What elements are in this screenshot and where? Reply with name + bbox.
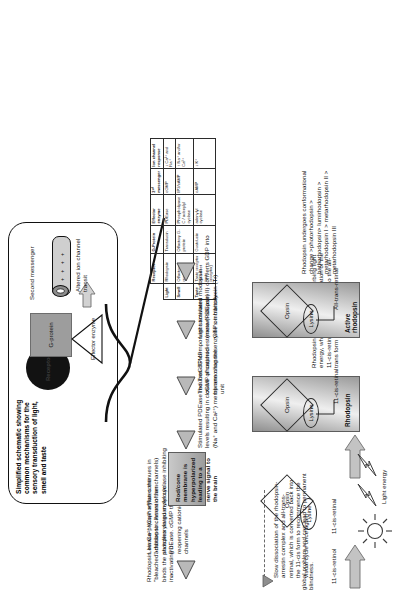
th-effector: Effector enzyme bbox=[151, 195, 164, 226]
effector-enzyme-label: Effector enzyme bbox=[84, 318, 102, 360]
row-stimulus-light: Light bbox=[163, 284, 176, 300]
lysine-label-active: Lysine bbox=[308, 311, 314, 328]
cascade-arrow-1-icon bbox=[176, 430, 196, 450]
cell-channel-taste: ↓ K⁺ bbox=[193, 139, 215, 169]
cell-gprotein-smell: Olfactory G-protein bbox=[176, 226, 193, 254]
cell-receptor-light: Rhodopsin bbox=[163, 254, 176, 284]
cell-messenger-smell: IP3/cAMP bbox=[176, 169, 193, 195]
th-channel: Ion channel response bbox=[151, 139, 164, 169]
opsin-label-active: Opsin bbox=[283, 297, 290, 325]
cell-messenger-light: cGMP bbox=[163, 169, 176, 195]
retinol-label: 11-cis-retinol bbox=[330, 532, 337, 584]
th-gprotein: G-Protein bbox=[151, 226, 164, 254]
ion-channel-dots: + + + + bbox=[59, 251, 65, 281]
cell-gprotein-light: Transducin bbox=[163, 226, 176, 254]
ion-channel-end-icon bbox=[52, 284, 69, 298]
cell-channel-smell: ↑ Na⁺ and/or Ca²⁺ bbox=[176, 139, 193, 169]
table-header-row: Receptor G-Protein Effector enzyme 2ⁿᵈ m… bbox=[151, 139, 164, 300]
receptor-label: Receptor bbox=[45, 355, 51, 381]
lightning-bolt-1-icon bbox=[358, 482, 378, 508]
th-messenger: 2ⁿᵈ messenger bbox=[151, 169, 164, 195]
cascade-arrow-3-icon bbox=[176, 320, 196, 340]
retinal-label: 11-cis-retinal bbox=[330, 482, 337, 534]
lysine-label-rhodopsin: Lysine bbox=[308, 405, 314, 422]
recovery-arrow-1-icon bbox=[176, 560, 196, 580]
channel-transit-label: Altered ion channel transit bbox=[74, 234, 89, 292]
cell-effector-smell: Phospholipase C / adenylyl cyclase bbox=[176, 195, 193, 226]
sun-icon bbox=[358, 514, 392, 548]
conformational-text: Rhodopsin undergoes conformational chang… bbox=[300, 154, 337, 274]
row-stimulus-smell: Smell bbox=[176, 284, 193, 300]
cell-messenger-taste: cAMP bbox=[193, 169, 215, 195]
figure-canvas: Simplified schematic showing common mech… bbox=[0, 0, 400, 600]
cascade-arrow-2-icon bbox=[176, 376, 196, 396]
table-row: Light Rhodopsin Transducin PDEase cGMP ↓… bbox=[163, 139, 176, 300]
gprotein-label: G-protein bbox=[48, 323, 54, 348]
gprotein-shape: G-protein bbox=[30, 313, 72, 357]
opsin-label-free: Opsin bbox=[283, 487, 290, 513]
lysine-label-free: Lysine bbox=[306, 506, 312, 523]
cell-effector-light: PDEase bbox=[163, 195, 176, 226]
step-cascade-3: Light activated rhodopsin (metarhodopsin… bbox=[196, 234, 218, 338]
cell-effector-taste: adenylyl cyclase bbox=[193, 195, 215, 226]
opsin-label-rhodopsin: Opsin bbox=[283, 391, 290, 419]
cascade-arrow-4-icon bbox=[176, 262, 196, 282]
effector-text: Effector enzyme bbox=[90, 318, 97, 360]
lysine-ellipse-free: Lysine bbox=[300, 498, 317, 530]
lightning-bolt-2-icon bbox=[358, 452, 378, 478]
light-energy-label: Light energy bbox=[380, 456, 387, 504]
nerve-signal-text: Rod/cone membrane is hyperpolarized lead… bbox=[174, 458, 218, 502]
th-receptor: Receptor bbox=[151, 254, 164, 284]
table-corner-cell bbox=[151, 284, 164, 300]
cell-channel-light: ↓ Ca²⁺ and Na⁺ bbox=[163, 139, 176, 169]
rhodopsin-box-label: Rhodopsin bbox=[344, 379, 351, 427]
second-messenger-label: Second messenger bbox=[28, 230, 35, 300]
block-arrow-right-1-icon bbox=[344, 544, 366, 588]
active-rhodopsin-box-label: Active rhodopsin bbox=[344, 283, 358, 333]
panel-title: Simplified schematic showing common mech… bbox=[15, 396, 48, 494]
